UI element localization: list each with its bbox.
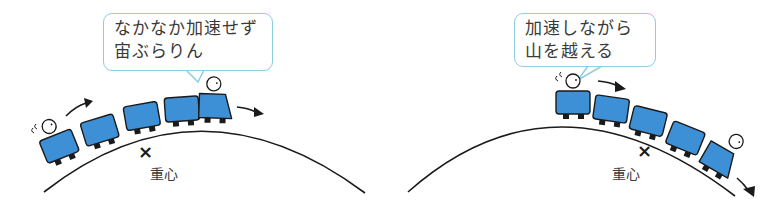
train-car-2 xyxy=(80,114,121,152)
train-car-rear xyxy=(556,74,590,119)
bubble-line-1: なかなか加速せず xyxy=(114,17,264,40)
center-of-gravity-label: 重心 xyxy=(612,163,640,183)
train-car-4 xyxy=(164,96,200,127)
rider-head-icon xyxy=(207,77,221,91)
train-car-3 xyxy=(123,101,162,135)
bubble-tail xyxy=(186,70,204,82)
rider-head-icon xyxy=(40,117,58,135)
panel-train-at-crest-fast: 加速しながら 山を越える × 重心 xyxy=(392,0,783,209)
train-car-2 xyxy=(592,95,630,128)
rider-head-icon xyxy=(566,74,580,88)
center-of-gravity-label: 重心 xyxy=(150,163,178,183)
sweat-mark-icon xyxy=(32,124,37,133)
bubble-tail xyxy=(578,66,602,80)
sweat-mark-icon xyxy=(556,72,562,81)
center-of-gravity-marker: × xyxy=(138,141,153,162)
speech-bubble-left: なかなか加速せず 宙ぶらりん xyxy=(103,13,273,71)
panel-train-at-crest-slow: なかなか加速せず 宙ぶらりん × 重心 xyxy=(0,0,392,209)
rider-head-icon xyxy=(727,132,746,151)
motion-arrow-icon xyxy=(66,103,86,116)
bubble-line-2: 宙ぶらりん xyxy=(114,40,264,63)
train-car-front xyxy=(198,76,233,123)
arrow-head-icon xyxy=(743,186,755,197)
speech-bubble-right: 加速しながら 山を越える xyxy=(514,13,656,67)
arrow-head-icon xyxy=(615,81,626,92)
arrow-head-icon xyxy=(254,107,264,117)
train-car-3 xyxy=(628,105,668,141)
bubble-line-1: 加速しながら xyxy=(525,17,647,40)
arrow-head-icon xyxy=(84,98,93,108)
train-car-rear xyxy=(33,113,82,168)
motion-arrow-icon xyxy=(237,107,256,112)
bubble-line-2: 山を越える xyxy=(525,40,647,63)
center-of-gravity-marker: × xyxy=(637,140,652,161)
